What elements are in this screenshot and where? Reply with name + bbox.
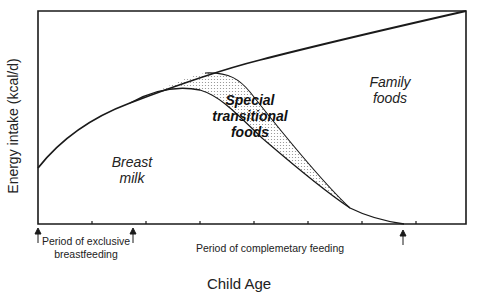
exclusive-period-label: Period of exclusive breastfeeding [40, 235, 132, 261]
transitional-line-3: foods [200, 124, 300, 140]
breast-milk-line-1: Breast [100, 154, 164, 170]
transitional-line-1: Special [200, 92, 300, 108]
arrow-end-complementary-icon [400, 230, 406, 245]
family-foods-line-1: Family [350, 74, 430, 90]
family-foods-line-2: foods [350, 90, 430, 106]
complementary-period-label: Period of complemetary feeding [190, 242, 350, 255]
transitional-foods-label: Special transitional foods [200, 92, 300, 140]
exclusive-period-line-1: Period of exclusive [40, 235, 132, 248]
breast-milk-line-2: milk [100, 170, 164, 186]
exclusive-period-line-2: breastfeeding [40, 248, 132, 261]
breast-milk-label: Breast milk [100, 154, 164, 186]
transitional-line-2: transitional [200, 108, 300, 124]
family-foods-label: Family foods [350, 74, 430, 106]
y-axis-label: Energy intake (kcal/d) [5, 51, 21, 201]
x-axis-label: Child Age [0, 275, 478, 292]
